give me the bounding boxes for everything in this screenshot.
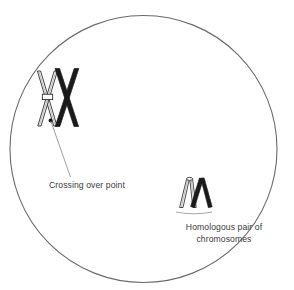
- crossing-over-leader-line: [51, 121, 71, 177]
- homologous-pair-chromosomes: [176, 177, 212, 213]
- homologous-pair-underline: [176, 212, 212, 214]
- diagram-canvas: Crossing over point Homologous pair of c…: [0, 0, 294, 290]
- outlined-v-centromere: [187, 177, 193, 180]
- homologous-pair-label: Homologous pair of chromosomes: [160, 222, 288, 245]
- homologous-pair-label-line-2: chromosomes: [160, 234, 288, 246]
- diagram-graphics: [0, 0, 294, 290]
- crossing-over-point-label: Crossing over point: [49, 180, 125, 192]
- outlined-x-chromosome: [37, 71, 57, 126]
- chiasma-point: [49, 119, 53, 123]
- homologous-pair-label-line-1: Homologous pair of: [160, 222, 288, 234]
- solid-x-chromosome: [55, 69, 79, 127]
- centromere-band: [42, 94, 52, 99]
- solid-v-limb-right: [201, 178, 213, 208]
- crossing-over-chromosome-pair: [37, 69, 78, 127]
- outlined-v-limb-left-inner: [181, 180, 187, 207]
